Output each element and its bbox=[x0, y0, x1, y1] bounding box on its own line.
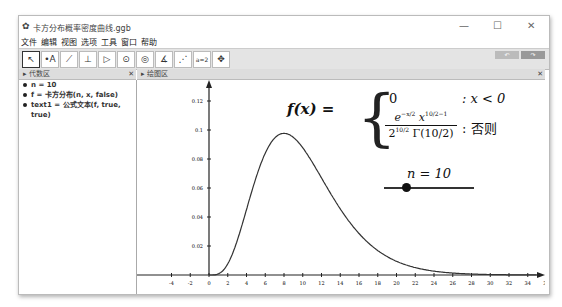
menu-tools[interactable]: 工具 bbox=[101, 38, 117, 47]
window-title: 卡方分布概率密度曲线.ggb bbox=[33, 22, 131, 33]
formula-fraction: e−x/2 x10/2−1 210/2 Γ(10/2) bbox=[385, 110, 457, 139]
algebra-item[interactable]: f = 卡方分布(n, x, false) bbox=[19, 90, 136, 100]
formula-case1: 0 bbox=[389, 91, 397, 106]
algebra-title: 代数区 bbox=[29, 70, 50, 78]
svg-text:12: 12 bbox=[318, 280, 324, 286]
svg-text:16: 16 bbox=[356, 280, 362, 286]
tool-reflect-icon[interactable]: ⋰ bbox=[174, 51, 192, 68]
tool-perpendicular-icon[interactable]: ⊥ bbox=[79, 51, 97, 68]
svg-text:26: 26 bbox=[450, 280, 456, 286]
redo-button[interactable]: ↷ bbox=[521, 51, 545, 59]
geogebra-logo-icon: ✿ bbox=[22, 21, 30, 31]
svg-text:0.12: 0.12 bbox=[192, 98, 203, 104]
formula-lhs: f(x) = bbox=[287, 100, 334, 118]
svg-text:32: 32 bbox=[506, 280, 512, 286]
menu-view[interactable]: 视图 bbox=[61, 38, 77, 47]
svg-text:18: 18 bbox=[375, 280, 381, 286]
undo-button[interactable]: ↶ bbox=[495, 51, 519, 59]
menu-options[interactable]: 选项 bbox=[81, 38, 97, 47]
title-bar: ✿ 卡方分布概率密度曲线.ggb — ☐ ✕ bbox=[19, 16, 549, 36]
maximize-button[interactable]: ☐ bbox=[493, 20, 502, 31]
formula-cond2: : 否则 bbox=[462, 118, 497, 137]
tool-slider-icon[interactable]: a=2 bbox=[193, 51, 211, 68]
svg-text:0.02: 0.02 bbox=[192, 243, 203, 249]
tool-point-icon[interactable]: •A bbox=[41, 51, 59, 68]
menu-file[interactable]: 文件 bbox=[21, 38, 37, 47]
svg-text:0.06: 0.06 bbox=[192, 185, 203, 191]
tool-circle-icon[interactable]: ⊙ bbox=[117, 51, 135, 68]
svg-text:0.1: 0.1 bbox=[195, 127, 203, 133]
slider-track[interactable] bbox=[384, 187, 474, 189]
svg-text:6: 6 bbox=[264, 280, 267, 286]
tool-angle-icon[interactable]: ∡ bbox=[155, 51, 173, 68]
graphics-view[interactable]: -4-20246810121416182022242628303234360.0… bbox=[137, 80, 545, 294]
svg-text:14: 14 bbox=[337, 280, 343, 286]
algebra-item[interactable]: n = 10 bbox=[19, 80, 136, 90]
svg-text:-2: -2 bbox=[188, 280, 193, 286]
svg-text:0: 0 bbox=[207, 280, 210, 286]
app-window: ✿ 卡方分布概率密度曲线.ggb — ☐ ✕ 文件编辑视图选项工具窗口帮助 ↖ … bbox=[18, 15, 550, 295]
close-panel-icon[interactable]: ✕ bbox=[128, 69, 134, 79]
tool-conic-icon[interactable]: ◎ bbox=[136, 51, 154, 68]
graphics-title: 绘图区 bbox=[147, 70, 168, 78]
close-panel-icon[interactable]: ✕ bbox=[537, 69, 543, 79]
tool-polygon-icon[interactable]: ▷ bbox=[98, 51, 116, 68]
formula-cond1: : x < 0 bbox=[462, 91, 505, 106]
svg-text:4: 4 bbox=[245, 280, 248, 286]
svg-text:10: 10 bbox=[300, 280, 306, 286]
svg-text:-4: -4 bbox=[169, 280, 174, 286]
algebra-header: ▸ 代数区 ✕ bbox=[19, 69, 136, 80]
algebra-view: n = 10 f = 卡方分布(n, x, false) text1 = 公式文… bbox=[19, 80, 137, 294]
menu-help[interactable]: 帮助 bbox=[141, 38, 157, 47]
menu-edit[interactable]: 编辑 bbox=[41, 38, 57, 47]
close-button[interactable]: ✕ bbox=[527, 20, 535, 31]
svg-text:0.04: 0.04 bbox=[192, 214, 203, 220]
svg-text:8: 8 bbox=[282, 280, 285, 286]
svg-text:36: 36 bbox=[543, 280, 545, 286]
svg-text:30: 30 bbox=[487, 280, 493, 286]
svg-text:22: 22 bbox=[412, 280, 418, 286]
tool-pointer-icon[interactable]: ↖ bbox=[22, 51, 40, 68]
svg-text:34: 34 bbox=[525, 280, 531, 286]
tool-move-view-icon[interactable]: ✥ bbox=[212, 51, 230, 68]
svg-text:0.08: 0.08 bbox=[192, 156, 203, 162]
svg-text:2: 2 bbox=[226, 280, 229, 286]
svg-text:20: 20 bbox=[393, 280, 399, 286]
menu-window[interactable]: 窗口 bbox=[121, 38, 137, 47]
slider-label: n = 10 bbox=[407, 166, 451, 181]
minimize-button[interactable]: — bbox=[459, 20, 469, 31]
svg-text:28: 28 bbox=[468, 280, 474, 286]
graphics-header: ▸ 绘图区 ✕ bbox=[137, 69, 545, 80]
slider-handle[interactable] bbox=[402, 183, 411, 192]
plot: -4-20246810121416182022242628303234360.0… bbox=[137, 80, 545, 294]
algebra-item[interactable]: text1 = 公式文本(f, true, true) bbox=[19, 100, 136, 110]
svg-text:24: 24 bbox=[431, 280, 437, 286]
toolbar: ↖ •A ⟋ ⊥ ▷ ⊙ ◎ ∡ ⋰ a=2 ✥ ↶ ↷ bbox=[19, 48, 549, 70]
tool-line-icon[interactable]: ⟋ bbox=[60, 51, 78, 68]
menu-bar: 文件编辑视图选项工具窗口帮助 bbox=[21, 36, 161, 47]
